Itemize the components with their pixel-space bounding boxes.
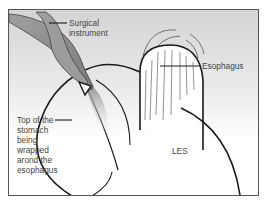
label-line: wrapped	[17, 145, 58, 155]
surgical-instrument-label: Surgical instrument	[69, 18, 108, 38]
label-line: arond the	[17, 155, 58, 165]
label-line: esophagus	[17, 165, 58, 175]
fundoplication-illustration	[0, 0, 268, 208]
label-line: instrument	[69, 28, 108, 38]
stomach-top-label: Top of the stomach being wrapped arond t…	[17, 115, 58, 175]
label-line: Top of the	[17, 115, 58, 125]
les-label: LES	[172, 146, 188, 156]
label-line: being	[17, 135, 58, 145]
label-line: Surgical	[69, 18, 108, 28]
label-line: stomach	[17, 125, 58, 135]
esophagus-label: Esophagus	[202, 61, 244, 71]
